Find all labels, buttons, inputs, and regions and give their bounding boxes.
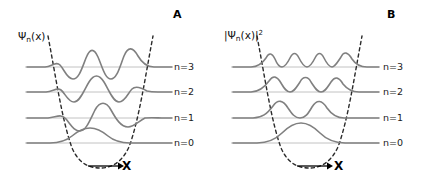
- level-label-n3-panel-a: n=3: [174, 61, 194, 72]
- panel-a-x-axis-label: X: [122, 159, 131, 173]
- wavefunction-curve-n3: [27, 49, 172, 79]
- harmonic-oscillator-figure: A Ψn(x) n=3 n=2 n=1 n=0 X B |Ψn(x)|2: [0, 0, 422, 184]
- arrow-right-icon: [327, 163, 333, 170]
- level-label-n2-panel-b: n=2: [383, 86, 403, 97]
- wavefunction-curve-n1: [27, 103, 172, 131]
- probability-density-curve-n2: [233, 77, 379, 92]
- level-label-n0-panel-a: n=0: [174, 137, 194, 148]
- level-label-n1-panel-b: n=1: [383, 112, 403, 123]
- wavefunction-curve-n2: [27, 76, 172, 102]
- wavefunction-curve-n0: [27, 128, 172, 143]
- level-label-n2-panel-a: n=2: [174, 86, 194, 97]
- probability-density-curve-n1: [233, 101, 379, 118]
- panel-b-x-axis-label: X: [334, 159, 343, 173]
- level-label-n1-panel-a: n=1: [174, 112, 194, 123]
- level-label-n0-panel-b: n=0: [383, 137, 403, 148]
- probability-density-curve-n0: [233, 123, 379, 143]
- level-label-n3-panel-b: n=3: [383, 61, 403, 72]
